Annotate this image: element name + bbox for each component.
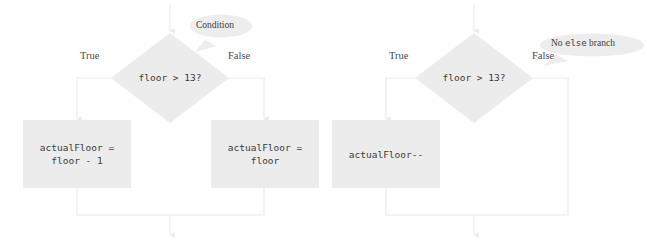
right-true-connector [386,78,415,119]
no-else-callout-suffix: branch [587,38,615,48]
right-true-label: True [389,50,408,61]
left-false-label: False [228,50,250,61]
right-false-connector [533,78,568,215]
left-true-process-line2: floor - 1 [23,154,131,167]
left-merge-connector [77,188,264,235]
left-false-process-line2: floor [211,154,319,167]
no-else-callout-keyword: else [565,38,587,48]
right-true-process-line1: actualFloor-- [332,148,440,161]
left-true-connector [77,78,111,119]
left-false-connector [229,78,264,119]
right-decision-text: floor > 13? [415,71,533,84]
right-false-label: False [532,50,554,61]
flowchart-diagram: floor > 13? True False actualFloor = flo… [0,0,647,241]
condition-callout-label: Condition [196,20,234,30]
left-decision-text: floor > 13? [111,71,229,84]
left-true-process-line1: actualFloor = [23,141,131,154]
no-else-callout-prefix: No [551,38,565,48]
left-true-label: True [80,50,99,61]
no-else-branch-callout-label: No else branch [551,38,615,48]
right-merge-connector [386,188,568,235]
condition-callout-prefix: Condition [196,20,234,30]
left-false-process-line1: actualFloor = [211,141,319,154]
diagram-vector-layer [0,0,647,241]
